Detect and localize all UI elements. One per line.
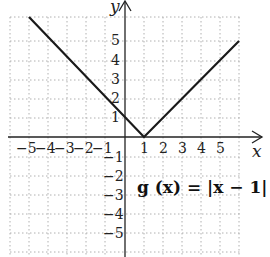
- y-tick: 2: [111, 90, 120, 106]
- x-tick: −5: [16, 140, 37, 156]
- y-tick: 1: [111, 109, 120, 125]
- function-equation-label: g (x) = |x − 1|: [137, 177, 268, 197]
- y-tick: −1: [103, 149, 124, 165]
- y-tick: −3: [103, 187, 124, 203]
- x-tick: 1: [140, 140, 149, 156]
- y-tick: −4: [103, 206, 124, 222]
- x-tick: 5: [216, 140, 225, 156]
- x-tick: −4: [35, 140, 56, 156]
- function-curve: [29, 17, 239, 137]
- x-tick: −3: [54, 140, 75, 156]
- y-tick: −2: [103, 168, 124, 184]
- x-tick: 3: [178, 140, 187, 156]
- x-axis-label: x: [252, 141, 262, 161]
- y-tick: 5: [111, 32, 120, 48]
- y-tick: 4: [111, 52, 120, 68]
- x-tick: 4: [197, 140, 206, 156]
- y-tick: −5: [103, 225, 124, 241]
- graph-canvas: y x −5 −4 −3 −2 −1 1 2 3 4 5 1 2 3 4 5 −…: [0, 0, 270, 257]
- y-tick: 3: [111, 71, 120, 87]
- y-axis-label: y: [109, 0, 120, 16]
- x-tick: −2: [73, 140, 94, 156]
- x-tick: 2: [159, 140, 168, 156]
